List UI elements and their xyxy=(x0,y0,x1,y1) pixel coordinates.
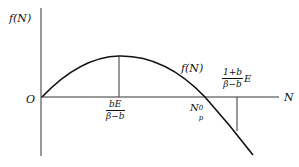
curve-label: f(N) xyxy=(181,63,203,74)
peak-numerator: bE xyxy=(106,100,125,111)
peak-denominator: β−b xyxy=(106,111,125,121)
x-axis-label: N xyxy=(284,92,294,103)
point-denominator: β−b xyxy=(222,79,243,89)
origin-label: O xyxy=(26,94,35,105)
y-axis-label: f(N) xyxy=(9,13,31,24)
root-sup: 0 xyxy=(199,105,203,112)
root-base: N xyxy=(190,102,199,113)
point-numerator: 1+b xyxy=(222,68,243,79)
diagram-graphics xyxy=(0,0,299,167)
root-sub: p xyxy=(199,115,203,122)
point-fraction: 1+b β−b xyxy=(222,68,243,89)
point-x-label: 1+b β−b E xyxy=(222,68,251,89)
root-label: N0p xyxy=(190,103,205,113)
peak-x-label: bE β−b xyxy=(106,100,125,121)
point-suffix: E xyxy=(244,73,251,84)
diagram: f(N) N O f(N) bE β−b N0p 1+b β−b E xyxy=(0,0,299,167)
